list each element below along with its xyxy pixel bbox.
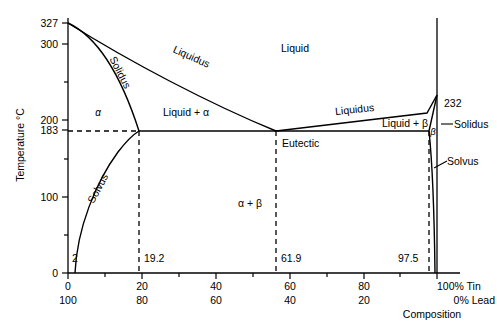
- x-tick-label-bottom-20: 20: [358, 294, 370, 306]
- region-label-liquid-plus-beta: Liquid + β: [382, 117, 428, 129]
- curve-label-liquidus-right: Liquidus: [334, 101, 374, 117]
- phase-diagram-svg: 327 300 200 183 100 0 Temperature °C 0 2…: [0, 0, 497, 322]
- x-tick-label-top-0: 0: [65, 280, 71, 292]
- curve-label-solvus-left: Solvus: [85, 171, 110, 204]
- x-tick-label-bottom-40: 40: [284, 294, 296, 306]
- region-label-beta: β: [429, 126, 436, 137]
- x-unit-label-tin: 100% Tin: [437, 280, 481, 292]
- x-tick-label-top-80: 80: [358, 280, 370, 292]
- y-tick-label-327: 327: [40, 17, 58, 29]
- solvus-left-curve: [75, 131, 139, 273]
- region-label-alpha: α: [95, 107, 101, 118]
- annotation-97-5: 97.5: [398, 252, 419, 264]
- annotation-232: 232: [444, 97, 462, 109]
- solvus-right-leader-line: [434, 161, 447, 168]
- x-tick-label-top-20: 20: [136, 280, 148, 292]
- y-axis-ticks: [62, 23, 68, 273]
- axis-lines: [68, 18, 460, 273]
- curve-label-eutectic: Eutectic: [282, 137, 319, 149]
- solvus-right-curve: [429, 131, 435, 273]
- curve-label-liquidus-left: Liquidus: [171, 43, 212, 70]
- x-axis-title: Composition: [403, 308, 462, 320]
- region-label-liquid: Liquid: [281, 42, 309, 54]
- x-axis-ticks: [68, 273, 437, 279]
- y-axis-title: Temperature °C: [14, 108, 26, 182]
- y-tick-label-100: 100: [40, 191, 58, 203]
- y-tick-label-300: 300: [40, 38, 58, 50]
- curve-label-solvus-right: Solvus: [447, 155, 479, 167]
- annotation-61-9: 61.9: [281, 252, 302, 264]
- x-tick-label-top-60: 60: [284, 280, 296, 292]
- curve-label-solidus-right: Solidus: [454, 118, 488, 130]
- x-tick-label-bottom-100: 100: [59, 294, 77, 306]
- y-tick-label-0: 0: [52, 267, 58, 279]
- phase-diagram-figure: 327 300 200 183 100 0 Temperature °C 0 2…: [0, 0, 497, 322]
- region-label-alpha-plus-beta: α + β: [238, 197, 262, 209]
- x-tick-label-bottom-80: 80: [136, 294, 148, 306]
- annotation-2: 2: [72, 252, 78, 264]
- annotation-19-2: 19.2: [144, 252, 165, 264]
- x-tick-label-bottom-60: 60: [210, 294, 222, 306]
- y-tick-label-183: 183: [40, 124, 58, 136]
- x-unit-label-lead: 0% Lead: [454, 294, 496, 306]
- region-label-liquid-plus-alpha: Liquid + α: [163, 106, 209, 118]
- x-tick-label-top-40: 40: [210, 280, 222, 292]
